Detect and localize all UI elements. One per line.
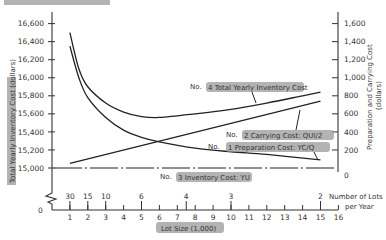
x-tick-label: 2 (85, 213, 90, 222)
left-tick-label: 15,600 (18, 109, 44, 118)
x-tick-label: 1 (68, 213, 73, 222)
right-tick-label: 600 (344, 109, 359, 118)
x-axis-title: Lot Size (1,000) (161, 225, 216, 233)
annotation-total-text: 4 Total Yearly Inventory Cost (208, 84, 308, 92)
lots-tick-label: 15 (83, 192, 93, 201)
annotation-total-prefix: No. (190, 83, 202, 91)
annotation-prep-text: 1 Preparation Cost: YC/Q (228, 144, 315, 152)
x-ticks: 12345678910111213141516 (68, 205, 344, 222)
zero-label: 0 (38, 206, 43, 215)
annotation-carrying-cost: No. 2 Carrying Cost: QUI/2 (226, 110, 334, 140)
x-tick-label: 13 (280, 213, 290, 222)
x-tick-label: 9 (211, 213, 216, 222)
annotation-prep-prefix: No. (208, 143, 220, 151)
right-tick-label: 1,400 (344, 37, 366, 46)
x-tick-label: 5 (139, 213, 144, 222)
x-tick-label: 4 (121, 213, 126, 222)
lots-title-line1: Number of Lots (329, 193, 383, 201)
x-tick-label: 14 (298, 213, 308, 222)
x-tick-label: 15 (316, 213, 326, 222)
lots-tick-label: 30 (65, 192, 75, 201)
left-tick-label: 16,600 (18, 19, 44, 28)
axis-break-icon (46, 178, 56, 210)
annotation-inv-prefix: No. (160, 173, 172, 181)
left-axis-title: Total Yearly Inventory Cost (dollars) (7, 59, 17, 185)
left-tick-label: 16,200 (18, 55, 44, 64)
left-tick-label: 16,000 (18, 73, 44, 82)
annotation-carry-arrow (296, 110, 300, 130)
cropped-title-highlight (4, 0, 110, 5)
annotation-total-arrow (252, 92, 256, 103)
x-tick-label: 7 (175, 213, 180, 222)
left-tick-label: 16,400 (18, 37, 44, 46)
left-y-ticks: 15,00015,20015,40015,60015,80016,00016,2… (18, 19, 55, 172)
right-axis-title-line1: Preparation and Carrying Cost (366, 44, 374, 150)
lots-title-line2: per Year (345, 203, 374, 211)
right-tick-label: 1,000 (344, 73, 366, 82)
lots-tick-label: 10 (101, 192, 111, 201)
lots-tick-label: 3 (229, 192, 234, 201)
x-tick-label: 11 (244, 213, 254, 222)
x-tick-label: 6 (157, 213, 162, 222)
x-tick-label: 8 (193, 213, 198, 222)
x-tick-label: 16 (334, 213, 344, 222)
left-tick-label: 15,200 (18, 146, 44, 155)
total-cost-curve (70, 33, 321, 118)
annotation-carry-prefix: No. (226, 131, 238, 139)
annotation-carry-text: 2 Carrying Cost: QUI/2 (244, 132, 322, 140)
x-tick-label: 10 (226, 213, 236, 222)
x-tick-label: 3 (103, 213, 108, 222)
right-y-ticks: 02004006008001,0001,2001,4001,600 (332, 19, 366, 179)
x-tick-label: 12 (262, 213, 272, 222)
right-tick-label: 800 (344, 91, 359, 100)
lots-tick-label: 6 (139, 192, 144, 201)
right-tick-label: 0 (344, 171, 349, 180)
left-axis-title-text: Total Yearly Inventory Cost (dollars) (9, 59, 17, 184)
right-tick-label: 1,200 (344, 55, 366, 64)
right-axis-title-line2: (dollars) (375, 81, 383, 110)
right-tick-label: 1,600 (344, 19, 366, 28)
right-tick-label: 400 (344, 128, 359, 137)
lots-tick-label: 4 (184, 192, 189, 201)
right-axis-title: Preparation and Carrying Cost (dollars) (366, 44, 383, 150)
chart-canvas: 15,00015,20015,40015,60015,80016,00016,2… (0, 0, 386, 240)
right-tick-label: 200 (344, 146, 359, 155)
left-tick-label: 15,400 (18, 128, 44, 137)
annotation-inventory-cost: No. 3 Inventory Cost: YU (160, 172, 252, 182)
left-tick-label: 15,800 (18, 91, 44, 100)
inventory-cost-chart: 15,00015,20015,40015,60015,80016,00016,2… (0, 0, 386, 240)
lots-tick-label: 2 (318, 192, 323, 201)
annotation-inv-text: 3 Inventory Cost: YU (178, 174, 250, 182)
annotation-total-cost: No. 4 Total Yearly Inventory Cost (190, 82, 308, 103)
left-tick-label: 15,000 (18, 164, 44, 173)
